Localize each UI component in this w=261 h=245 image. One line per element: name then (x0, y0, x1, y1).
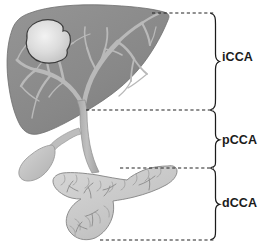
region-label-pcca: pCCA (222, 134, 257, 147)
bracket-dcca (211, 169, 220, 240)
pancreas-shape (53, 166, 177, 240)
region-label-dcca: dCCA (222, 197, 257, 210)
bracket-icca (211, 14, 220, 110)
bracket-pcca (211, 111, 220, 168)
cholangiocarcinoma-classification-figure: iCCA pCCA dCCA (0, 0, 261, 245)
liver-group (7, 5, 169, 135)
region-label-icca: iCCA (222, 51, 253, 64)
pancreas-group (53, 166, 177, 240)
gallbladder (19, 145, 55, 181)
region-brackets (211, 14, 220, 240)
common-bile-duct (77, 100, 99, 173)
